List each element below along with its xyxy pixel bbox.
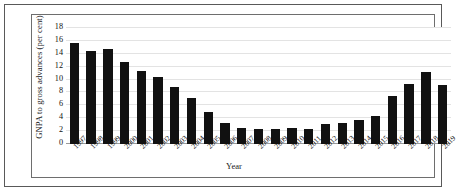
y-tick-label: 14 (55, 49, 63, 57)
bar (170, 87, 179, 144)
bar (86, 51, 95, 144)
bar (120, 62, 129, 144)
bar (153, 77, 162, 144)
y-tick-label: 4 (59, 113, 63, 121)
bar (404, 84, 413, 144)
y-axis-title: GNPA to gross advances (per cent) (34, 2, 44, 152)
bar (438, 85, 447, 144)
bar (421, 72, 430, 144)
y-tick-label: 6 (59, 100, 63, 108)
y-tick-label: 8 (59, 87, 63, 95)
figure-frame: GNPA to gross advances (per cent) 024681… (4, 4, 442, 187)
bar (103, 49, 112, 144)
y-tick-label: 2 (59, 126, 63, 134)
chart-frame: GNPA to gross advances (per cent) 024681… (31, 14, 435, 178)
y-tick-label: 12 (55, 62, 63, 70)
y-tick-label: 0 (59, 139, 63, 147)
bars-layer (66, 28, 451, 144)
y-tick-label: 18 (55, 23, 63, 31)
plot-area: 024681012141618 (66, 28, 451, 144)
x-axis-title: Year (32, 161, 436, 171)
bar (137, 71, 146, 144)
y-tick-label: 10 (55, 74, 63, 82)
bar (70, 43, 79, 144)
y-tick-label: 16 (55, 36, 63, 44)
